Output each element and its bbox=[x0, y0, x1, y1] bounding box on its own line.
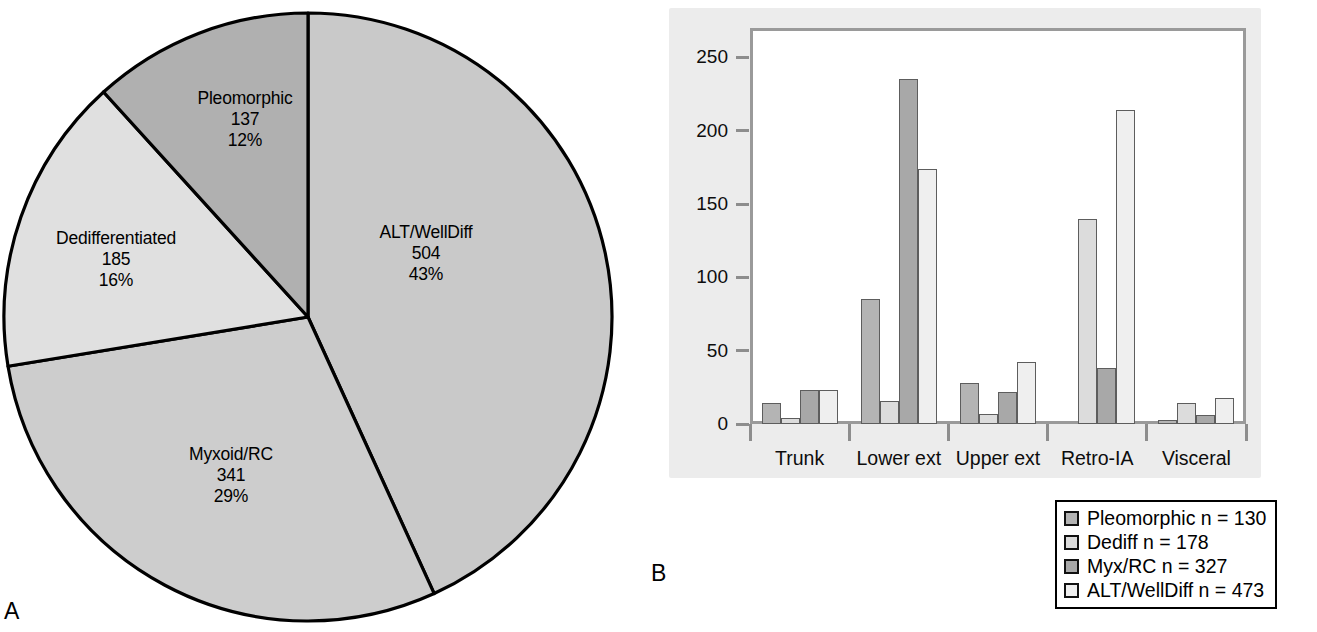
legend-row: Myx/RC n = 327 bbox=[1064, 554, 1266, 578]
bar bbox=[1017, 362, 1036, 424]
legend-label: ALT/WellDiff n = 473 bbox=[1087, 580, 1264, 600]
pie-label-dedifferentiated: Dedifferentiated 185 16% bbox=[16, 228, 216, 291]
bar-chart-plate: 050100150200250TrunkLower extUpper extRe… bbox=[669, 8, 1261, 478]
figure-root: ALT/WellDiff 504 43% Myxoid/RC 341 29% D… bbox=[0, 0, 1317, 632]
pie-label-myxoid-rc: Myxoid/RC 341 29% bbox=[141, 444, 321, 507]
legend-row: Dediff n = 178 bbox=[1064, 530, 1266, 554]
bar bbox=[1215, 398, 1234, 424]
pie-label-alt-count: 504 bbox=[336, 243, 516, 264]
y-axis-tick-mark bbox=[736, 349, 749, 352]
pie-label-pleomorphic: Pleomorphic 137 12% bbox=[155, 88, 335, 151]
pie-label-pleo-name: Pleomorphic bbox=[155, 88, 335, 109]
bar bbox=[1196, 415, 1215, 424]
legend-swatch-icon bbox=[1064, 559, 1079, 574]
bar bbox=[819, 390, 838, 424]
legend-label: Dediff n = 178 bbox=[1087, 532, 1209, 552]
bar bbox=[979, 414, 998, 424]
bar bbox=[762, 403, 781, 424]
pie-label-dediff-count: 185 bbox=[16, 249, 216, 270]
legend-label: Myx/RC n = 327 bbox=[1087, 556, 1227, 576]
y-axis-tick-label: 100 bbox=[670, 267, 728, 286]
x-axis-tick-mark bbox=[1046, 424, 1049, 441]
legend-swatch-icon bbox=[1064, 583, 1079, 598]
pie-label-dediff-name: Dedifferentiated bbox=[16, 228, 216, 249]
panel-a-letter: A bbox=[4, 600, 19, 623]
bar bbox=[1116, 110, 1135, 424]
bar bbox=[1177, 403, 1196, 424]
bar bbox=[800, 390, 819, 424]
bar bbox=[918, 169, 937, 424]
pie-label-dediff-pct: 16% bbox=[16, 270, 216, 291]
panel-b-bar-chart: 050100150200250TrunkLower extUpper extRe… bbox=[651, 0, 1317, 632]
pie-label-alt-welldiff: ALT/WellDiff 504 43% bbox=[336, 222, 516, 285]
x-axis-tick-mark bbox=[947, 424, 950, 441]
legend-label: Pleomorphic n = 130 bbox=[1087, 508, 1266, 528]
bar bbox=[899, 79, 918, 424]
pie-label-pleo-pct: 12% bbox=[155, 130, 335, 151]
bar-chart-canvas: 050100150200250TrunkLower extUpper extRe… bbox=[669, 8, 1261, 478]
panel-a-pie-chart: ALT/WellDiff 504 43% Myxoid/RC 341 29% D… bbox=[0, 0, 640, 632]
y-axis-tick-mark bbox=[736, 423, 749, 426]
pie-label-myx-pct: 29% bbox=[141, 486, 321, 507]
bar bbox=[1097, 368, 1116, 424]
legend-swatch-icon bbox=[1064, 535, 1079, 550]
bar bbox=[1078, 219, 1097, 424]
bar bbox=[1158, 420, 1177, 424]
x-axis-category-label: Visceral bbox=[1136, 448, 1256, 468]
y-axis-tick-label: 150 bbox=[670, 194, 728, 213]
y-axis-tick-mark bbox=[736, 129, 749, 132]
pie-label-myx-count: 341 bbox=[141, 465, 321, 486]
x-axis-tick-mark bbox=[749, 424, 752, 441]
bar-chart-legend: Pleomorphic n = 130Dediff n = 178Myx/RC … bbox=[1055, 500, 1277, 609]
pie-label-alt-pct: 43% bbox=[336, 264, 516, 285]
pie-label-myx-name: Myxoid/RC bbox=[141, 444, 321, 465]
y-axis-tick-label: 0 bbox=[670, 414, 728, 433]
bar bbox=[861, 299, 880, 424]
y-axis-tick-mark bbox=[736, 203, 749, 206]
y-axis-tick-label: 50 bbox=[670, 341, 728, 360]
y-axis-tick-label: 200 bbox=[670, 121, 728, 140]
y-axis-tick-mark bbox=[736, 56, 749, 59]
panel-b-letter: B bbox=[651, 562, 666, 585]
pie-label-pleo-count: 137 bbox=[155, 109, 335, 130]
pie-label-alt-name: ALT/WellDiff bbox=[336, 222, 516, 243]
legend-row: ALT/WellDiff n = 473 bbox=[1064, 578, 1266, 602]
x-axis-tick-mark bbox=[1245, 424, 1248, 441]
legend-swatch-icon bbox=[1064, 511, 1079, 526]
x-axis-tick-mark bbox=[848, 424, 851, 441]
bar bbox=[781, 418, 800, 424]
bar bbox=[960, 383, 979, 424]
legend-row: Pleomorphic n = 130 bbox=[1064, 506, 1266, 530]
x-axis-tick-mark bbox=[1145, 424, 1148, 441]
y-axis-tick-label: 250 bbox=[670, 47, 728, 66]
bar bbox=[998, 392, 1017, 424]
bar bbox=[880, 401, 899, 424]
y-axis-tick-mark bbox=[736, 276, 749, 279]
